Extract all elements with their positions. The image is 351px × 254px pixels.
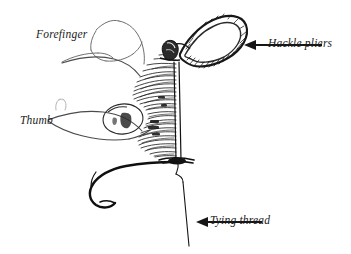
label-hackle-pliers: Hackle pliers (268, 37, 332, 50)
illustration-figure: Forefinger Thumb Hackle pliers Tying thr… (0, 0, 351, 254)
label-tying-thread: Tying thread (210, 214, 270, 227)
label-thumb: Thumb (20, 114, 53, 127)
label-forefinger: Forefinger (36, 28, 87, 41)
